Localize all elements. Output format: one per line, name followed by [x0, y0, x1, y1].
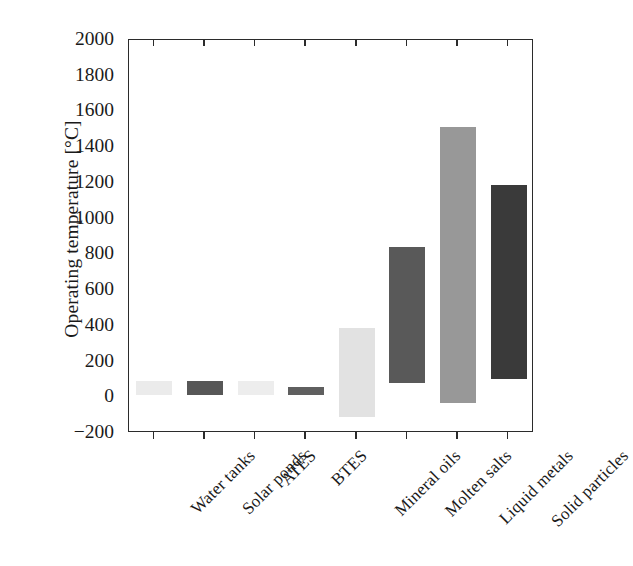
y-tick-label: 1800 [75, 62, 114, 88]
x-tick-mark [406, 432, 407, 439]
x-tick-mark [507, 432, 508, 439]
plot-area [128, 39, 533, 432]
x-tick-mark [203, 432, 204, 439]
bar-molten-salts [389, 247, 425, 383]
bar-liquid-metals [440, 127, 476, 403]
y-tick-label: −200 [74, 419, 114, 445]
x-tick-mark-top [507, 39, 508, 46]
bar-ates [238, 381, 274, 395]
x-tick-mark [153, 432, 154, 439]
x-tick-mark-top [254, 39, 255, 46]
x-tick-mark-top [304, 39, 305, 46]
bar-btes [288, 387, 324, 396]
x-tick-mark [456, 432, 457, 439]
bar-water-tanks [136, 381, 172, 395]
bar-solar-ponds [187, 381, 223, 395]
y-tick-label: 1600 [75, 97, 114, 123]
x-tick-mark-top [203, 39, 204, 46]
y-tick-label: 800 [85, 240, 114, 266]
x-tick-mark-top [406, 39, 407, 46]
x-tick-mark [254, 432, 255, 439]
x-tick-mark [304, 432, 305, 439]
y-tick-label: 1200 [75, 169, 114, 195]
y-tick-label: 200 [85, 348, 114, 374]
x-tick-label: BTES [328, 446, 372, 490]
y-tick-label: 600 [85, 276, 114, 302]
y-tick-label: 1400 [75, 133, 114, 159]
x-tick-mark-top [355, 39, 356, 46]
x-tick-mark [355, 432, 356, 439]
x-tick-mark-top [153, 39, 154, 46]
x-tick-mark-top [456, 39, 457, 46]
y-tick-label: 400 [85, 312, 114, 338]
bar-solid-particles [491, 185, 527, 380]
y-tick-label: 1000 [75, 205, 114, 231]
bar-mineral-oils [339, 328, 375, 417]
y-tick-label: 0 [104, 383, 114, 409]
y-tick-label: 2000 [75, 26, 114, 52]
